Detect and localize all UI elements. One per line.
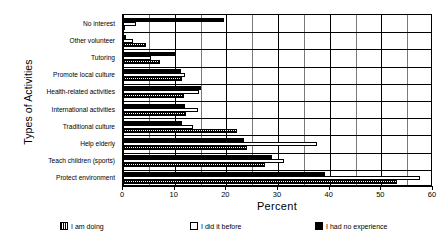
bar-group <box>123 15 431 32</box>
x-axis-tick-label: 10 <box>169 190 177 199</box>
bar-group <box>123 101 431 118</box>
y-axis-tick-label: Teach children (sports) <box>14 157 115 164</box>
bar-group <box>123 153 431 170</box>
bar-group <box>123 135 431 152</box>
bar-group <box>123 49 431 66</box>
bar-group <box>123 118 431 135</box>
legend-swatch-icon <box>315 222 323 230</box>
legend-label: I had no experience <box>326 223 388 230</box>
y-axis-tick-label: Protect environment <box>14 174 115 181</box>
plot-area <box>122 14 432 186</box>
bar-group <box>123 84 431 101</box>
bar <box>123 60 160 64</box>
legend-swatch-icon <box>60 222 68 230</box>
legend-item[interactable]: I had no experience <box>315 222 388 230</box>
legend-item[interactable]: I did it before <box>190 222 241 230</box>
y-axis-tick-label: Tutoring <box>14 54 115 61</box>
x-axis-title: Percent <box>122 200 432 212</box>
bar <box>123 43 146 47</box>
bar <box>123 112 186 116</box>
bar <box>123 146 247 150</box>
x-axis-tick-label: 30 <box>273 190 281 199</box>
x-axis-tick-label: 20 <box>221 190 229 199</box>
legend-label: I did it before <box>201 223 241 230</box>
category-label-column: No interestOther volunteerTutoringPromot… <box>18 14 119 186</box>
bar <box>123 129 237 133</box>
bar <box>123 94 184 98</box>
x-axis-tick-label: 40 <box>324 190 332 199</box>
chart-legend: I am doingI did it beforeI had no experi… <box>0 222 443 236</box>
bar <box>123 77 182 81</box>
bar <box>123 26 125 30</box>
y-axis-tick-label: Help elderly <box>14 140 115 147</box>
bar-group <box>123 170 431 186</box>
x-axis-tick-label: 60 <box>428 190 436 199</box>
bar <box>123 180 397 184</box>
y-axis-tick-label: Other volunteer <box>14 36 115 43</box>
bar-chart: Types of Activities No interestOther vol… <box>0 0 443 249</box>
x-axis-tick-label: 50 <box>376 190 384 199</box>
legend-swatch-icon <box>190 222 198 230</box>
y-axis-tick-label: No interest <box>14 19 115 26</box>
bar-group <box>123 67 431 84</box>
x-axis-tick-label: 0 <box>120 190 124 199</box>
bar <box>123 163 265 167</box>
y-axis-tick-label: Health-related activities <box>14 88 115 95</box>
bar <box>123 18 224 22</box>
y-axis-tick-label: Promote local culture <box>14 71 115 78</box>
legend-item[interactable]: I am doing <box>60 222 104 230</box>
bar-group <box>123 32 431 49</box>
y-axis-tick-label: International activities <box>14 105 115 112</box>
y-axis-tick-label: Traditional culture <box>14 122 115 129</box>
legend-label: I am doing <box>71 223 104 230</box>
